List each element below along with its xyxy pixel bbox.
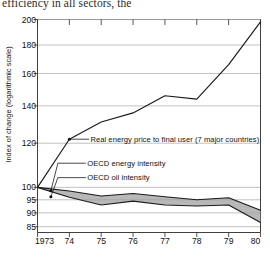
annotation-anchor-dot-0 <box>68 138 71 141</box>
annotation-label-0: Real energy price to final user (7 major… <box>90 135 259 144</box>
chart-plot-area <box>0 0 270 263</box>
annotation-label-2: OECD oil intensity <box>87 173 150 182</box>
chart-figure: Index of change (logarithmic scale) 2001… <box>0 0 270 263</box>
annotation-label-1: OECD energy intensity <box>87 159 165 168</box>
annotation-leader-1 <box>51 163 86 191</box>
annotation-anchor-dot-1 <box>49 189 52 192</box>
annotation-anchor-dot-2 <box>49 195 52 198</box>
